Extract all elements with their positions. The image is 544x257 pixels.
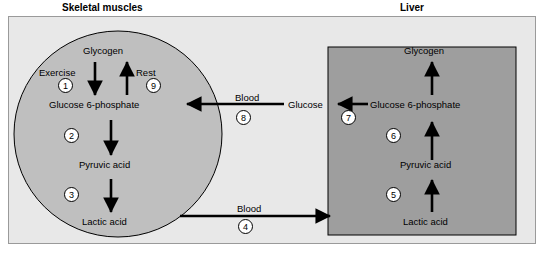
- label-glucose: Glucose: [288, 99, 323, 110]
- step-marker-2: 2: [64, 128, 79, 143]
- label-lactic-muscle: Lactic acid: [82, 216, 127, 227]
- label-exercise: Exercise: [39, 67, 75, 78]
- label-blood-bottom: Blood: [237, 203, 261, 214]
- label-pyruvic-muscle: Pyruvic acid: [79, 159, 130, 170]
- label-glycogen-muscle: Glycogen: [83, 45, 123, 56]
- label-blood-top: Blood: [235, 92, 259, 103]
- label-lactic-liver: Lactic acid: [403, 216, 448, 227]
- label-glycogen-liver: Glycogen: [404, 45, 444, 56]
- step-marker-1: 1: [58, 78, 73, 93]
- step-marker-9: 9: [146, 78, 161, 93]
- step-marker-6: 6: [386, 128, 401, 143]
- label-g6p-muscle: Glucose 6-phosphate: [49, 99, 139, 110]
- skeletal-muscles-title: Skeletal muscles: [62, 2, 143, 13]
- step-marker-4: 4: [238, 219, 253, 234]
- step-marker-8: 8: [236, 110, 251, 125]
- label-pyruvic-liver: Pyruvic acid: [400, 159, 451, 170]
- label-g6p-liver: Glucose 6-phosphate: [370, 99, 460, 110]
- label-rest: Rest: [136, 67, 156, 78]
- step-marker-5: 5: [386, 187, 401, 202]
- diagram-canvas: Skeletal muscles Liver Glycogen Exercise…: [0, 0, 544, 257]
- step-marker-3: 3: [64, 187, 79, 202]
- liver-title: Liver: [400, 2, 424, 13]
- step-marker-7: 7: [341, 110, 356, 125]
